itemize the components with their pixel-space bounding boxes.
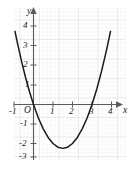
grid-major — [14, 8, 126, 160]
y-tick-label-neg3: -3 — [19, 152, 27, 161]
x-tick-label-1: 1 — [50, 107, 55, 116]
y-tick-label-neg2: -2 — [19, 139, 27, 148]
x-tick-label-4: 4 — [108, 107, 113, 116]
y-tick-label-3: 3 — [23, 41, 28, 50]
y-tick-label-2: 2 — [23, 60, 28, 69]
y-tick-label-4: 4 — [23, 21, 28, 30]
y-tick-label-1: 1 — [25, 80, 30, 89]
x-tick-label-neg1: -1 — [9, 107, 17, 116]
origin-label: O — [24, 106, 31, 116]
y-axis-label: y — [27, 7, 31, 17]
x-tick-label-2: 2 — [69, 107, 74, 116]
graph-figure: 4 3 2 1 -1 -2 -3 -1 1 2 3 4 O y x — [0, 0, 132, 170]
y-tick-label-neg1: -1 — [20, 119, 28, 128]
x-tick-label-3: 3 — [89, 107, 94, 116]
x-axis-label: x — [123, 106, 127, 116]
